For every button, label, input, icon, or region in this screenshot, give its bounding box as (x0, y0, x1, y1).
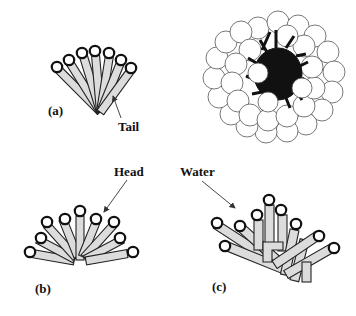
head-icon (264, 195, 274, 205)
panel-b-semicircle: Head (b) (25, 164, 145, 296)
head-icon (235, 221, 245, 231)
head-icon (220, 241, 230, 251)
head-icon (36, 233, 46, 243)
head-icon (91, 214, 101, 224)
head-icon (126, 63, 136, 73)
head-icon (104, 48, 114, 58)
head-icon (212, 218, 222, 228)
panel-label-a: (a) (48, 103, 63, 118)
head-arrow-icon (104, 180, 127, 212)
tail-arrow-icon (113, 96, 121, 118)
head-icon (116, 55, 126, 65)
tail-annotation: Tail (118, 119, 140, 134)
panel-label-b: (b) (35, 281, 51, 296)
head-icon (252, 210, 262, 220)
spherical-micelle (203, 11, 345, 143)
panel-label-c: (c) (212, 279, 226, 294)
head-icon (329, 243, 339, 253)
water-annotation: Water (180, 164, 215, 179)
head-icon (25, 247, 35, 257)
head-icon (109, 217, 119, 227)
water-arrow-icon (202, 181, 235, 208)
head-icon (75, 206, 85, 216)
head-icon (314, 231, 324, 241)
head-icon (64, 55, 74, 65)
head-annotation: Head (114, 164, 144, 179)
head-icon (77, 48, 87, 58)
head-icon (60, 214, 70, 224)
head-icon (90, 46, 100, 56)
micelle-diagram: (a) Tail (0, 0, 356, 316)
head-icon (52, 62, 62, 72)
head-icon (276, 205, 286, 215)
panel-a-fan: (a) Tail (48, 46, 140, 134)
head-icon (291, 219, 301, 229)
head-icon (128, 247, 138, 257)
head-icon (42, 217, 52, 227)
panel-c-disordered: Water (c) (180, 164, 339, 294)
head-icon (115, 233, 125, 243)
